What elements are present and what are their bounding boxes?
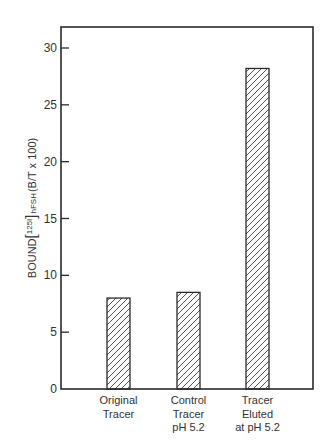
x-category-label: pH 5.2 bbox=[172, 421, 204, 433]
x-category-label: Tracer bbox=[242, 394, 274, 406]
y-axis-ticks: 051015202530 bbox=[44, 41, 69, 396]
bar bbox=[177, 292, 200, 389]
x-category-label: Control bbox=[171, 394, 206, 406]
bar-chart: 051015202530 OriginalTracerControlTracer… bbox=[0, 0, 330, 446]
x-category-label: Original bbox=[100, 394, 138, 406]
x-category-label: Eluted bbox=[242, 408, 273, 420]
bar bbox=[246, 68, 269, 389]
x-category-label: at pH 5.2 bbox=[235, 421, 280, 433]
y-tick-label: 10 bbox=[44, 268, 58, 282]
y-axis-title: BOUND[125I]hFSH(B/T x 100) bbox=[22, 138, 39, 278]
bar bbox=[107, 298, 130, 389]
bars bbox=[107, 68, 269, 389]
y-tick-label: 0 bbox=[50, 382, 57, 396]
y-tick-label: 30 bbox=[44, 41, 58, 55]
x-category-label: Tracer bbox=[103, 408, 135, 420]
y-tick-label: 15 bbox=[44, 212, 58, 226]
x-category-label: Tracer bbox=[173, 408, 205, 420]
y-tick-label: 5 bbox=[50, 325, 57, 339]
x-axis-category-labels: OriginalTracerControlTracerpH 5.2TracerE… bbox=[100, 394, 280, 433]
y-tick-label: 25 bbox=[44, 98, 58, 112]
y-tick-label: 20 bbox=[44, 155, 58, 169]
